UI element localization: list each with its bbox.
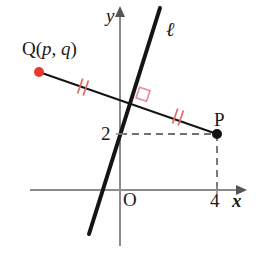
origin-label: O — [123, 190, 137, 209]
y-tick-label-2: 2 — [101, 124, 111, 143]
point-p-label: P — [214, 110, 225, 129]
x-tick-label-4: 4 — [210, 191, 220, 210]
geometry-figure: Q(p, q) P y x ℓ O 2 4 — [0, 0, 272, 266]
y-axis-arrowhead — [115, 6, 125, 17]
dashed-guides-group — [120, 134, 217, 190]
segment-qp — [39, 72, 217, 134]
point-p-dot — [212, 129, 222, 139]
line-ell-label: ℓ — [166, 19, 174, 39]
point-q-label: Q(p, q) — [22, 39, 77, 58]
y-axis-label: y — [106, 6, 114, 25]
x-axis-label: x — [232, 191, 242, 210]
right-angle-marker — [136, 87, 150, 101]
congruence-tick-right — [173, 108, 184, 125]
point-q-dot — [34, 67, 44, 77]
